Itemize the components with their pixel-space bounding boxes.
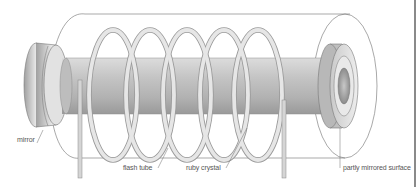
label-mirror: mirror [17, 136, 35, 143]
label-flash-tube: flash tube [123, 164, 152, 171]
partly-mirrored-surface [318, 44, 358, 128]
label-ruby-crystal: ruby crystal [186, 164, 221, 171]
ruby-laser-diagram [0, 0, 419, 187]
ruby-crystal-rod [60, 58, 330, 114]
label-partly-mirrored-surface: partly mirrored surface [343, 164, 411, 171]
frame-border [414, 0, 416, 187]
